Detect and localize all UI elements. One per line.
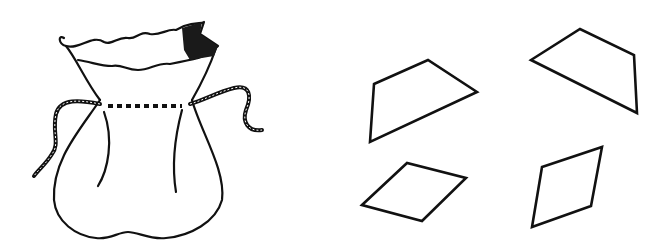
quadrilateral-2-shape [531,29,637,113]
figure-canvas [0,0,663,252]
quadrilateral-3-shape [362,163,466,221]
quadrilaterals [0,0,663,252]
quadrilateral-1-shape [370,60,477,142]
quadrilateral-4-shape [532,147,602,227]
